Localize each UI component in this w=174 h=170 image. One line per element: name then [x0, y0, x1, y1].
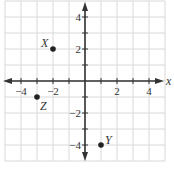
point-x — [50, 46, 56, 52]
y-tick-label: −2 — [69, 107, 81, 119]
y-tick-label: −4 — [69, 139, 81, 151]
point-label-z: Z — [40, 99, 47, 113]
x-tick-label: −4 — [15, 85, 27, 97]
axes: x — [3, 2, 172, 161]
y-tick-label: 4 — [76, 11, 82, 23]
y-tick-label: 2 — [76, 43, 82, 55]
point-y — [98, 142, 104, 148]
x-tick-label: 2 — [114, 85, 120, 97]
x-axis-left-arrow — [3, 78, 12, 84]
point-label-x: X — [40, 36, 49, 50]
y-axis-down-arrow — [82, 152, 88, 161]
x-axis-right-arrow — [155, 78, 164, 84]
x-tick-label: 4 — [146, 85, 152, 97]
x-axis-label: x — [165, 74, 172, 88]
point-z — [34, 94, 40, 100]
x-tick-label: −2 — [47, 85, 59, 97]
coordinate-plane: x −4−22442−2−4 XYZ — [0, 0, 174, 170]
y-axis-up-arrow — [82, 2, 88, 11]
